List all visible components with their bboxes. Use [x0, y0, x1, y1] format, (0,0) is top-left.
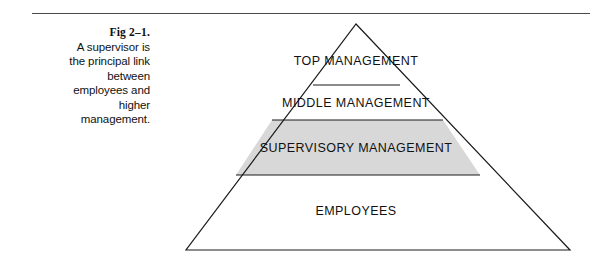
pyramid-diagram: TOP MANAGEMENT MIDDLE MANAGEMENT SUPERVI…	[0, 0, 608, 274]
tier-label-supervisory-management: SUPERVISORY MANAGEMENT	[0, 141, 608, 155]
figure-container: Fig 2–1. A supervisor is the principal l…	[0, 0, 608, 274]
tier-label-text: EMPLOYEES	[315, 204, 396, 218]
tier-label-text: SUPERVISORY MANAGEMENT	[260, 141, 453, 155]
tier-label-middle-management: MIDDLE MANAGEMENT	[0, 96, 608, 110]
tier-label-top-management: TOP MANAGEMENT	[0, 54, 608, 68]
tier-label-text: MIDDLE MANAGEMENT	[282, 96, 430, 110]
tier-label-text: TOP MANAGEMENT	[294, 54, 419, 68]
tier-label-employees: EMPLOYEES	[0, 204, 608, 218]
pyramid-svg	[0, 0, 608, 274]
